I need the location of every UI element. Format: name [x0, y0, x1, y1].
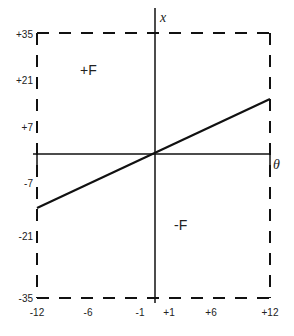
y-tick-labels: +35 +21 +7 -7 -21 -35 — [16, 29, 33, 304]
phase-diagram: x θ +35 +21 +7 -7 -21 -35 -12 -6 -1 +1 +… — [0, 0, 294, 336]
y-tick-label: +7 — [22, 122, 34, 133]
y-tick-label: +21 — [16, 75, 33, 86]
horizontal-axis-label: θ — [273, 157, 280, 172]
y-tick-label: +35 — [16, 29, 33, 40]
x-tick-label: +12 — [262, 307, 279, 318]
y-tick-label: -7 — [24, 178, 33, 189]
dashed-boundary — [37, 33, 270, 298]
region-label-negative-force: -F — [174, 217, 187, 233]
x-tick-label: -6 — [84, 307, 93, 318]
vertical-axis-label: x — [159, 10, 167, 25]
y-tick-label: -21 — [19, 231, 34, 242]
x-tick-label: +1 — [163, 307, 175, 318]
region-label-positive-force: +F — [80, 62, 97, 78]
y-tick-label: -35 — [19, 293, 34, 304]
x-tick-label: +6 — [205, 307, 217, 318]
x-tick-labels: -12 -6 -1 +1 +6 +12 — [30, 307, 279, 318]
x-tick-label: -1 — [136, 307, 145, 318]
x-tick-label: -12 — [30, 307, 45, 318]
